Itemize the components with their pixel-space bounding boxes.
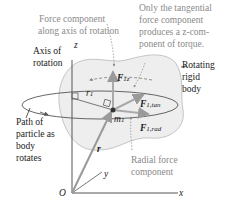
tangential-note-1: Only the tangential: [139, 3, 212, 13]
axis-rotation-label-2: rotation: [33, 58, 63, 68]
path-label-4: rotates: [16, 153, 41, 163]
rotating-body-label-2: rigid: [182, 72, 200, 82]
tangential-note-4: ponent of torque.: [139, 39, 204, 49]
path-label-3: body: [16, 141, 35, 151]
origin-label: O: [59, 188, 66, 198]
radial-label-2: component: [131, 167, 173, 177]
rotating-body-label-3: body: [182, 84, 201, 94]
tangential-note-3: produces a z-com-: [139, 27, 209, 37]
radial-label-1: Radial force: [131, 155, 178, 165]
m1-label: m1: [114, 114, 124, 125]
particle-m1: [111, 108, 116, 113]
rotating-body-label-1: Rotating: [182, 60, 215, 70]
F1z-label: F1z: [117, 73, 130, 84]
rigid-body-shape: [59, 55, 183, 150]
path-label-2: particle as: [16, 129, 55, 139]
y-axis-label: y: [104, 169, 108, 179]
axis-rotation-label-1: Axis of: [33, 46, 61, 56]
r1-label: r1: [86, 88, 93, 99]
force-axis-label-2: along axis of rotation: [38, 26, 119, 36]
tangential-note-2: force component: [139, 15, 203, 25]
z-axis-label: z: [74, 40, 78, 50]
path-label-1: Path of: [16, 117, 43, 127]
x-axis-label: x: [179, 188, 183, 198]
force-axis-label-1: Force component: [39, 14, 105, 24]
F1rad-label: F1,rad: [140, 123, 161, 134]
F1tan-label: F1,tan: [140, 99, 161, 110]
r-vector-label: r: [97, 144, 101, 154]
